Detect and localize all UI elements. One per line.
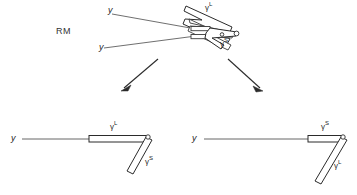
gamma-superscript: S xyxy=(325,120,329,126)
bottom-left-horizontal-rod xyxy=(89,136,148,143)
bottom-right-diagonal-rod xyxy=(315,137,347,184)
bottom-left-diagonal-rod-label: γS xyxy=(145,158,153,166)
leader-line-lower-y xyxy=(104,36,196,48)
bottom-left-vertex-dot xyxy=(146,135,150,139)
bottom-right-group xyxy=(204,135,347,184)
gamma-superscript: L xyxy=(114,120,117,126)
right-arrow-shaft xyxy=(228,59,260,88)
gamma-superscript: L xyxy=(209,1,212,7)
bottom-left-strand-label-y: y xyxy=(11,134,16,143)
top-rod-label-gamma-S: γS xyxy=(220,40,228,48)
bottom-right-strand-label-y: y xyxy=(192,134,197,143)
top-rod-label-gamma-L: γL xyxy=(205,4,212,12)
bottom-right-vertex-dot xyxy=(341,135,345,139)
diagram-canvas xyxy=(0,0,357,195)
top-strand-label-y-upper: y xyxy=(108,6,113,15)
state-label-rm: RM xyxy=(56,27,71,36)
vertex-dot-outer xyxy=(234,31,239,36)
left-arrow-shaft xyxy=(124,59,158,88)
leader-line-upper-y xyxy=(112,14,196,29)
top-junction-bar-upper xyxy=(191,27,210,31)
gamma-superscript: S xyxy=(224,37,228,43)
vertex-dot-inner xyxy=(220,33,224,37)
top-complex-group xyxy=(104,6,239,50)
bottom-left-group xyxy=(22,135,152,174)
gamma-superscript: S xyxy=(149,155,153,161)
bottom-left-horizontal-rod-label: γL xyxy=(110,123,117,131)
gamma-superscript: L xyxy=(338,159,341,165)
bottom-right-horizontal-rod xyxy=(308,136,343,143)
bottom-right-diagonal-rod-label: γL xyxy=(334,162,341,170)
transition-arrows-group xyxy=(121,59,263,92)
figure-root: RM y y γL γS y γL γS y γS γL xyxy=(0,0,357,195)
top-strand-label-y-lower: y xyxy=(99,43,104,52)
bottom-right-horizontal-rod-label: γS xyxy=(321,123,329,131)
